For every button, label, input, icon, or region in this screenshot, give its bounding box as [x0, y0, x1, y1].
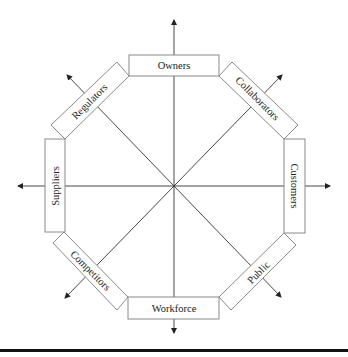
bottom-rule: [0, 349, 348, 352]
stakeholder-diagram: Owners Workforce Suppliers Customers Reg…: [0, 0, 348, 357]
label-suppliers: Suppliers: [50, 166, 61, 206]
arrow-up-right-icon: [174, 75, 282, 186]
arrow-up-left-icon: [67, 75, 174, 186]
label-workforce: Workforce: [152, 303, 197, 314]
label-competitors: Competitors: [68, 248, 112, 292]
box-owners: Owners: [129, 55, 219, 76]
box-suppliers: Suppliers: [45, 139, 65, 232]
box-workforce: Workforce: [128, 297, 219, 319]
box-customers: Customers: [284, 139, 305, 233]
arrow-down-left-icon: [65, 186, 174, 298]
label-collaborators: Collaborators: [233, 74, 281, 122]
label-owners: Owners: [158, 60, 191, 71]
box-competitors: Competitors: [53, 232, 128, 310]
label-customers: Customers: [289, 164, 300, 209]
arrow-down-right-icon: [174, 186, 281, 297]
